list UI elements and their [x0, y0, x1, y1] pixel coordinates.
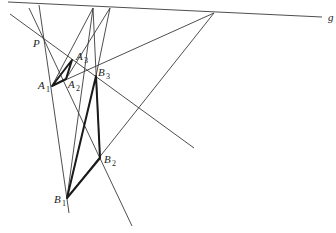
label-b2: B — [104, 153, 111, 165]
line-g — [8, 2, 322, 17]
label-p: P — [32, 37, 40, 49]
label-b1: B — [54, 193, 61, 205]
label-a2: A — [67, 78, 75, 90]
label-g: g — [328, 11, 334, 23]
label-b3: B — [98, 66, 105, 78]
label-b1-sub: 1 — [62, 199, 66, 208]
label-a3: A — [75, 50, 83, 62]
line-p-a2-b2 — [29, 8, 132, 226]
label-a2-sub: 2 — [76, 84, 80, 93]
label-a1-sub: 1 — [46, 85, 50, 94]
label-b3-sub: 3 — [106, 72, 110, 81]
label-a3-sub: 3 — [84, 56, 88, 65]
line-p-a1-b1 — [39, 5, 69, 213]
desargues-diagram: g P A 1 A 2 A 3 B 3 B 2 B 1 — [0, 0, 336, 233]
triangle-b — [67, 76, 100, 198]
label-b2-sub: 2 — [112, 159, 116, 168]
label-a1: A — [37, 79, 45, 91]
line-a1-a3-ext — [52, 8, 93, 86]
